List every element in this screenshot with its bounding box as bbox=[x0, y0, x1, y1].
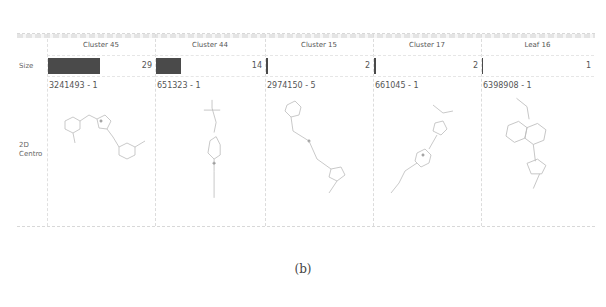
size-value: 1 bbox=[586, 61, 591, 70]
cluster-column[interactable]: Cluster 15 2 2974150 - 5 bbox=[265, 34, 374, 226]
size-bar bbox=[482, 58, 483, 74]
molecule-structure-image bbox=[485, 94, 590, 218]
row-label-centroid-2: Centro bbox=[19, 150, 42, 159]
size-cell: 2 bbox=[373, 55, 481, 77]
row-label-centroid-1: 2D bbox=[19, 141, 29, 150]
size-cell: 2 bbox=[265, 55, 373, 77]
centroid-id: 661045 - 1 bbox=[375, 81, 419, 90]
column-header[interactable]: Leaf 16 bbox=[481, 41, 594, 49]
column-header[interactable]: Cluster 45 bbox=[47, 41, 155, 49]
centroid-id: 651323 - 1 bbox=[157, 81, 201, 90]
size-value: 2 bbox=[473, 61, 478, 70]
size-cell: 29 bbox=[47, 55, 155, 77]
column-header[interactable]: Cluster 44 bbox=[155, 41, 265, 49]
size-value: 14 bbox=[252, 61, 262, 70]
centroid-id: 2974150 - 5 bbox=[267, 81, 316, 90]
figure-caption: (b) bbox=[0, 262, 606, 276]
column-header[interactable]: Cluster 15 bbox=[265, 41, 373, 49]
size-bar bbox=[266, 58, 268, 74]
cluster-column[interactable]: Cluster 17 2 661045 - 1 bbox=[373, 34, 482, 226]
cluster-column[interactable]: Leaf 16 1 6398908 - 1 bbox=[481, 34, 594, 226]
size-cell: 1 bbox=[481, 55, 594, 77]
molecule-structure-image bbox=[269, 94, 369, 218]
row-label-column: Size 2D Centro bbox=[17, 34, 48, 226]
size-bar bbox=[48, 58, 100, 74]
size-bar bbox=[156, 58, 181, 74]
size-value: 29 bbox=[142, 61, 152, 70]
centroid-id: 3241493 - 1 bbox=[49, 81, 98, 90]
cluster-column[interactable]: Cluster 44 14 651323 - 1 bbox=[155, 34, 266, 226]
centroid-id: 6398908 - 1 bbox=[483, 81, 532, 90]
molecule-structure-image bbox=[159, 94, 261, 218]
size-value: 2 bbox=[365, 61, 370, 70]
cluster-table: Size 2D Centro Cluster 45 29 3241493 - 1 bbox=[17, 33, 595, 227]
size-bar bbox=[374, 58, 376, 74]
row-label-size: Size bbox=[19, 62, 33, 71]
cluster-column[interactable]: Cluster 45 29 3241493 - 1 bbox=[47, 34, 156, 226]
size-cell: 14 bbox=[155, 55, 265, 77]
column-header[interactable]: Cluster 17 bbox=[373, 41, 481, 49]
molecule-structure-image bbox=[51, 94, 151, 218]
molecule-structure-image bbox=[377, 94, 477, 218]
